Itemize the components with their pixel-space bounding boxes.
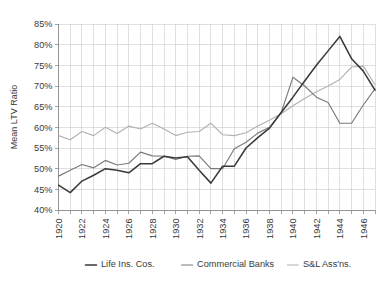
series-line [59,77,376,176]
y-tick-label: 45% [34,185,52,195]
y-tick-label: 70% [34,81,52,91]
x-tick-label: 1946 [359,219,369,239]
x-tick-label: 1944 [335,219,345,239]
y-axis-tick-labels: 40%45%50%55%60%65%70%75%80%85% [34,19,52,215]
legend-label: Commercial Banks [197,259,274,269]
y-tick-label: 60% [34,123,52,133]
x-axis-tick-labels: 1920192219241926192819301932193419361938… [54,219,369,239]
legend-label: Life Ins. Cos. [101,259,155,269]
series-line [59,66,376,140]
y-tick-label: 55% [34,143,52,153]
y-axis-title: Mean LTV Ratio [9,85,19,149]
y-tick-label: 50% [34,164,52,174]
y-tick-label: 40% [34,205,52,215]
y-tick-label: 75% [34,61,52,71]
x-tick-label: 1928 [148,219,158,239]
x-tick-label: 1942 [312,219,322,239]
x-tick-label: 1926 [124,219,134,239]
y-tick-label: 80% [34,40,52,50]
chart-figure: 40%45%50%55%60%65%70%75%80%85% 192019221… [0,0,392,282]
x-tick-label: 1936 [241,219,251,239]
x-tick-label: 1920 [54,219,64,239]
x-tick-label: 1932 [195,219,205,239]
x-tick-label: 1938 [265,219,275,239]
x-tick-label: 1940 [288,219,298,239]
x-tick-label: 1934 [218,219,228,239]
legend-item: S&L Ass'ns. [287,259,351,269]
y-tick-label: 65% [34,102,52,112]
legend-item: Life Ins. Cos. [85,259,154,269]
series-layer [59,36,376,192]
x-tick-label: 1924 [101,219,111,239]
y-axis-title-text: Mean LTV Ratio [9,85,19,149]
chart-legend: Life Ins. Cos.Commercial BanksS&L Ass'ns… [85,259,351,269]
ltv-ratio-line-chart: 40%45%50%55%60%65%70%75%80%85% 192019221… [0,0,392,282]
x-tick-label: 1922 [77,219,87,239]
x-tick-label: 1930 [171,219,181,239]
legend-item: Commercial Banks [182,259,275,269]
legend-label: S&L Ass'ns. [303,259,351,269]
y-tick-label: 85% [34,19,52,29]
